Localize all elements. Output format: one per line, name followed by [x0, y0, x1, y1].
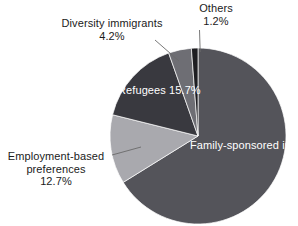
pie-label-family-sponsored-immigrants-name2: immigrants [282, 139, 298, 151]
pie-chart: Others 1.2% Diversity immigrants 4.2% Em… [0, 0, 298, 226]
pie-label-refugees-name: Refugees [118, 84, 166, 96]
pie-label-diversity-immigrants-value: 4.2% [56, 30, 168, 43]
pie-label-family-sponsored-immigrants: Family-sponsored immigrants 66.1% [190, 139, 290, 152]
pie-label-employment-based-preferences-name: Employment-based [2, 150, 110, 163]
pie-label-diversity-immigrants: Diversity immigrants 4.2% [56, 17, 168, 42]
pie-label-refugees: Refugees 15.7% [118, 84, 190, 97]
pie-slices [110, 48, 286, 224]
pie-label-employment-based-preferences: Employment-based preferences 12.7% [2, 150, 110, 188]
pie-label-others: Others 1.2% [186, 2, 246, 27]
pie-label-employment-based-preferences-name2: preferences [2, 163, 110, 176]
pie-label-diversity-immigrants-name: Diversity immigrants [56, 17, 168, 30]
pie-label-employment-based-preferences-value: 12.7% [2, 175, 110, 188]
pie-label-others-value: 1.2% [186, 15, 246, 28]
pie-label-refugees-value: 15.7% [169, 84, 201, 96]
pie-label-family-sponsored-immigrants-name: Family-sponsored [190, 139, 279, 151]
pie-label-others-name: Others [186, 2, 246, 15]
